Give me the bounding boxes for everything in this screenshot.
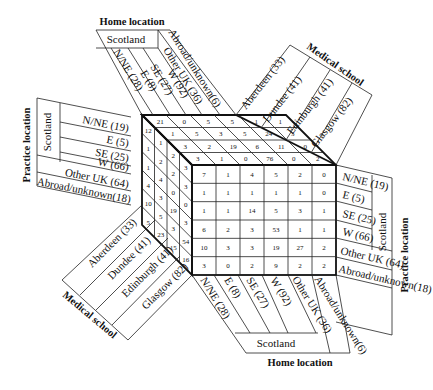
left-cell: 3 bbox=[184, 219, 188, 227]
front-face-grid bbox=[192, 165, 336, 275]
home-top-scotland: Scotland bbox=[107, 33, 146, 45]
front-cell: 1 bbox=[226, 171, 230, 179]
front-cell: 5 bbox=[274, 207, 278, 215]
home-location-bottom-labels: Scotland Home location N/NE (28) E (8) S… bbox=[192, 274, 370, 368]
front-cell: 14 bbox=[249, 207, 257, 215]
front-cell: 1 bbox=[226, 189, 230, 197]
top-cell: 0 bbox=[292, 155, 296, 163]
top-cell: 3 bbox=[196, 155, 200, 163]
top-cell: 2 bbox=[208, 143, 212, 151]
top-cell: 3 bbox=[184, 143, 188, 151]
practice-left-nne: N/NE (19) bbox=[82, 113, 131, 135]
front-cell: 0 bbox=[322, 189, 326, 197]
front-cell: 27 bbox=[297, 244, 305, 252]
top-cell: 1 bbox=[279, 118, 283, 126]
front-cell: 1 bbox=[322, 226, 326, 234]
front-cell: 7 bbox=[202, 171, 206, 179]
top-cell: 21 bbox=[157, 118, 165, 126]
practice-right-scotland: Scotland bbox=[376, 212, 388, 251]
top-cell: 1 bbox=[171, 130, 175, 138]
left-cell: 10 bbox=[145, 200, 153, 208]
practice-right-title: Practice location bbox=[399, 217, 410, 292]
top-cell: 24 bbox=[265, 130, 273, 138]
top-cell: 6 bbox=[256, 143, 260, 151]
front-cell: 0 bbox=[322, 171, 326, 179]
left-cell: 23 bbox=[157, 231, 165, 239]
front-cell: 5 bbox=[274, 171, 278, 179]
front-cell: 0 bbox=[226, 262, 230, 270]
front-cell: 9 bbox=[274, 262, 278, 270]
left-cell: 12 bbox=[145, 127, 153, 135]
front-cell: 1 bbox=[298, 226, 302, 234]
front-cell: 2 bbox=[298, 171, 302, 179]
left-cell: 2 bbox=[172, 152, 176, 160]
top-cell: 0 bbox=[183, 118, 187, 126]
front-cell: 1 bbox=[322, 207, 326, 215]
top-cell: 1 bbox=[255, 118, 259, 126]
front-cell: 2 bbox=[322, 262, 326, 270]
front-cell: 1 bbox=[202, 189, 206, 197]
front-cell: 3 bbox=[226, 244, 230, 252]
left-cell: 2 bbox=[172, 170, 176, 178]
front-cell: 2 bbox=[298, 262, 302, 270]
left-cell: 0 bbox=[172, 189, 176, 197]
three-way-cube-diagram: 7145201111101114531623531110331927230292… bbox=[0, 0, 433, 390]
top-cell: 19 bbox=[230, 143, 238, 151]
front-cell: 3 bbox=[298, 207, 302, 215]
left-cell: 2 bbox=[159, 158, 163, 166]
left-cell: 1 bbox=[147, 145, 151, 153]
top-cell: 11 bbox=[278, 143, 285, 151]
left-cell: 3 bbox=[172, 225, 176, 233]
left-cell: 19 bbox=[170, 207, 178, 215]
home-top-nne: N/NE (28) bbox=[110, 47, 146, 94]
home-top-title: Home location bbox=[99, 16, 164, 27]
front-cell: 1 bbox=[250, 189, 254, 197]
front-cell: 3 bbox=[250, 226, 254, 234]
front-cell: 6 bbox=[202, 226, 206, 234]
school-bottom-title: Medical school bbox=[61, 289, 119, 340]
top-cell: 5 bbox=[195, 130, 199, 138]
front-cell: 10 bbox=[201, 244, 209, 252]
home-location-top-labels: Scotland Home location N/NE (28) E (8) S… bbox=[96, 16, 236, 115]
home-bottom-e: E (8) bbox=[221, 275, 244, 301]
front-cell: 2 bbox=[250, 262, 254, 270]
front-cell: 53 bbox=[273, 226, 281, 234]
top-cell: 2 bbox=[316, 155, 320, 163]
top-cell: 76 bbox=[266, 155, 274, 163]
top-cell: 1 bbox=[220, 155, 224, 163]
left-cell: 4 bbox=[159, 176, 163, 184]
practice-left-scotland: Scotland bbox=[41, 112, 53, 151]
front-cell: 1 bbox=[298, 189, 302, 197]
top-cell: 5 bbox=[231, 118, 235, 126]
practice-location-left-labels: N/NE (19) E (5) SE (25) W (66) Other UK … bbox=[21, 98, 132, 206]
left-cell: 5 bbox=[159, 213, 163, 221]
left-cell: 3 bbox=[184, 164, 188, 172]
left-cell: 3 bbox=[184, 183, 188, 191]
left-cell: 54 bbox=[182, 238, 190, 246]
top-cell: 5 bbox=[243, 130, 247, 138]
front-cell: 3 bbox=[250, 244, 254, 252]
front-cell: 1 bbox=[274, 189, 278, 197]
front-cell: 1 bbox=[226, 207, 230, 215]
top-cell: 0 bbox=[244, 155, 248, 163]
left-cell: 1 bbox=[147, 164, 151, 172]
home-bottom-scotland: Scotland bbox=[257, 337, 296, 349]
front-cell: 1 bbox=[202, 207, 206, 215]
front-cell: 2 bbox=[226, 226, 230, 234]
left-cell: 3 bbox=[159, 194, 163, 202]
left-cell: 4 bbox=[147, 182, 151, 190]
home-bottom-title: Home location bbox=[267, 357, 332, 368]
front-cell: 19 bbox=[273, 244, 281, 252]
left-cell: 0 bbox=[184, 201, 188, 209]
top-cell: 5 bbox=[207, 118, 211, 126]
front-cell: 2 bbox=[322, 244, 326, 252]
front-cell: 3 bbox=[202, 262, 206, 270]
top-cell: 3 bbox=[219, 130, 223, 138]
left-cell: 1 bbox=[159, 139, 163, 147]
practice-right-abroad: Abroad/unknown(18) bbox=[337, 262, 433, 296]
front-face-values: 7145201111101114531623531110331927230292… bbox=[201, 171, 327, 271]
school-top-title: Medical school bbox=[305, 41, 366, 88]
practice-left-title: Practice location bbox=[21, 107, 32, 182]
front-cell: 4 bbox=[250, 171, 254, 179]
top-cell: 0 bbox=[304, 143, 308, 151]
